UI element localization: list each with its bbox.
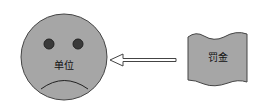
face-label: 单位 [54,59,74,71]
sad-face-unit: 单位 [21,14,107,100]
diagram-canvas: 单位 罚金 [0,0,261,111]
hollow-arrow-left-icon [110,54,176,66]
fine-flag: 罚金 [188,33,247,86]
face-circle [21,14,107,100]
right-eye-icon [73,39,83,49]
left-eye-icon [44,39,54,49]
flag-label: 罚金 [208,51,228,63]
